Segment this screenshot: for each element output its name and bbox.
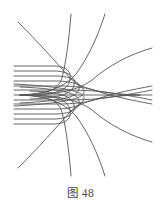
figure-caption: 图 48 bbox=[0, 184, 161, 200]
figure-caption-text: 图 48 bbox=[67, 188, 94, 200]
streamline-diagram bbox=[0, 0, 161, 206]
figure-container: 图 48 bbox=[0, 0, 161, 206]
